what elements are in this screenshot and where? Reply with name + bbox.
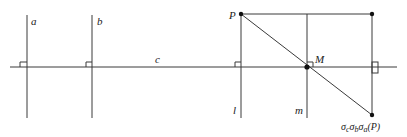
arg-P: (P) [367,121,380,133]
label-M: M [314,53,325,65]
right-angle-b-icon [86,62,92,67]
label-b: b [97,15,103,27]
label-image: σcσbσa(P) [341,121,381,134]
point-image [370,113,374,117]
point-P [239,12,243,16]
right-angle-l-icon [235,62,241,67]
label-a: a [31,15,37,27]
point-M [304,64,309,69]
label-P: P [228,9,236,21]
label-c: c [155,53,160,65]
reflection-diagram: c a b l m P M σcσbσa(P) [0,0,407,137]
right-angle-a-icon [20,62,27,67]
point-top-right [370,12,374,16]
label-m: m [295,104,303,116]
label-l: l [233,104,236,116]
